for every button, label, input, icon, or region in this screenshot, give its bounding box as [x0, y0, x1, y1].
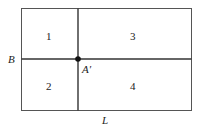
a-prime-label: A′ [81, 63, 92, 75]
diagram-canvas: 1 2 3 4 B A′ L [0, 0, 198, 134]
region-1-label: 1 [46, 30, 52, 42]
region-4-label: 4 [130, 80, 136, 92]
l-label: L [101, 114, 108, 126]
region-2-label: 2 [46, 80, 52, 92]
region-3-label: 3 [130, 30, 136, 42]
b-label: B [8, 53, 15, 65]
point-a-prime-dot [75, 56, 81, 62]
